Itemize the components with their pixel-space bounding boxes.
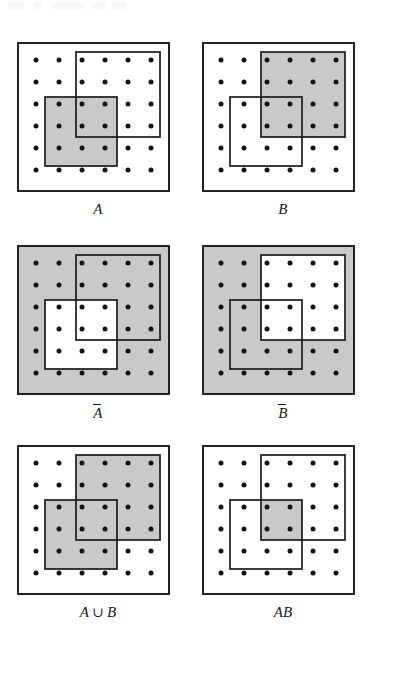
label-operator: ∪ bbox=[92, 605, 104, 620]
panel-a-complement: A bbox=[13, 243, 183, 421]
panel-b-diagram bbox=[200, 40, 357, 194]
panel-a: A bbox=[13, 40, 183, 217]
label-overline-term: A bbox=[93, 405, 102, 421]
panel-b-complement-label: B bbox=[198, 405, 368, 421]
panel-b-label: B bbox=[198, 202, 368, 217]
panel-ab-diagram bbox=[200, 443, 357, 597]
panel-b-canvas bbox=[200, 40, 368, 194]
shaded-region bbox=[18, 246, 169, 394]
panel-b: B bbox=[198, 40, 368, 217]
shaded-region bbox=[45, 97, 117, 166]
label-term: A bbox=[80, 604, 89, 620]
panel-b-complement: B bbox=[198, 243, 368, 421]
panel-a-union-b-label: A∪B bbox=[13, 605, 183, 620]
label-term: B bbox=[278, 201, 287, 217]
panel-a-label: A bbox=[13, 202, 183, 217]
panel-a-union-b: A∪B bbox=[13, 443, 183, 620]
panel-ab: AB bbox=[198, 443, 368, 620]
panel-ab-label: AB bbox=[198, 605, 368, 620]
panel-a-canvas bbox=[15, 40, 183, 194]
panel-ab-canvas bbox=[200, 443, 368, 597]
label-overline-term: B bbox=[278, 405, 287, 421]
panel-a-union-b-diagram bbox=[15, 443, 172, 597]
panel-a-union-b-canvas bbox=[15, 443, 183, 597]
shaded-region bbox=[203, 246, 354, 394]
panel-b-complement-diagram bbox=[200, 243, 357, 397]
label-term: B bbox=[107, 604, 116, 620]
label-term: A bbox=[93, 201, 102, 217]
panel-a-complement-canvas bbox=[15, 243, 183, 397]
panel-b-complement-canvas bbox=[200, 243, 368, 397]
set-operations-figure: ABABA∪BAB bbox=[0, 0, 396, 681]
panel-a-complement-label: A bbox=[13, 405, 183, 421]
shaded-region bbox=[261, 52, 345, 137]
panel-a-diagram bbox=[15, 40, 172, 194]
panel-a-complement-diagram bbox=[15, 243, 172, 397]
label-term: AB bbox=[274, 604, 293, 620]
